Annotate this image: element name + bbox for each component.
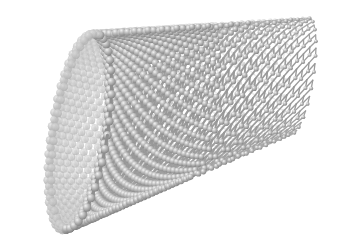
carbon-atom	[291, 127, 295, 131]
rim-carbon-atom	[72, 51, 80, 59]
carbon-atom	[250, 149, 255, 154]
carbon-atom	[284, 19, 288, 23]
carbon-atom	[235, 91, 240, 96]
carbon-atom	[201, 169, 207, 175]
rim-carbon-atom	[47, 176, 55, 184]
nanotube-render-canvas	[0, 0, 342, 247]
carbon-atom	[213, 94, 219, 100]
carbon-atom	[274, 130, 278, 134]
rim-carbon-atom	[48, 151, 56, 159]
carbon-atom	[283, 48, 287, 52]
carbon-atom	[286, 133, 290, 137]
rim-carbon-atom	[76, 43, 84, 51]
carbon-atom	[301, 115, 305, 119]
carbon-atom	[89, 149, 97, 157]
carbon-atom	[265, 44, 270, 49]
carbon-atom	[220, 47, 226, 53]
carbon-atom	[188, 174, 194, 180]
carbon-atom	[277, 55, 282, 60]
carbon-atom	[301, 60, 305, 64]
carbon-atom	[296, 116, 300, 120]
carbon-atom	[258, 145, 262, 149]
carbon-atom	[195, 24, 201, 30]
rim-carbon-atom	[104, 47, 112, 55]
carbon-atom	[283, 101, 287, 105]
carbon-atom	[213, 38, 219, 44]
carbon-atom	[265, 125, 270, 130]
nanotube-figure	[0, 0, 342, 247]
carbon-atom	[231, 79, 237, 85]
carbon-atom	[250, 25, 255, 30]
rim-carbon-atom	[51, 123, 59, 131]
carbon-atom	[225, 41, 231, 47]
carbon-atom	[233, 26, 238, 31]
carbon-atom	[231, 131, 236, 136]
carbon-atom	[199, 154, 205, 160]
carbon-atom	[252, 116, 257, 121]
carbon-atom	[235, 21, 240, 26]
carbon-atom	[222, 29, 228, 35]
carbon-atom	[304, 86, 308, 90]
carbon-atom	[264, 79, 269, 84]
carbon-atom	[296, 43, 300, 47]
carbon-atom	[254, 66, 259, 71]
carbon-atom	[205, 23, 211, 29]
carbon-atom	[264, 108, 269, 113]
carbon-atom	[239, 27, 244, 32]
carbon-atom	[306, 102, 310, 106]
carbon-atom	[225, 77, 231, 83]
carbon-atom	[242, 73, 247, 78]
carbon-atom	[289, 66, 293, 70]
carbon-atom	[254, 22, 259, 27]
carbon-atom	[301, 31, 305, 35]
carbon-atom	[266, 20, 271, 25]
carbon-atom	[165, 26, 172, 33]
carbon-atom	[314, 39, 318, 43]
carbon-atom	[209, 43, 215, 49]
carbon-atom	[239, 140, 244, 145]
carbon-atom	[287, 25, 291, 29]
carbon-atom	[209, 165, 214, 170]
carbon-atom	[260, 125, 265, 130]
carbon-atom	[257, 116, 262, 121]
rim-carbon-atom	[98, 158, 106, 166]
carbon-atom	[226, 131, 231, 136]
carbon-atom	[299, 77, 303, 81]
rim-carbon-atom	[57, 96, 65, 104]
carbon-atom	[271, 53, 276, 58]
rim-carbon-atom	[95, 171, 103, 179]
carbon-atom	[196, 171, 202, 177]
carbon-atom	[268, 90, 273, 95]
carbon-atom	[210, 116, 216, 122]
carbon-atom	[299, 22, 303, 26]
carbon-atom	[276, 72, 281, 77]
carbon-atom	[210, 51, 216, 57]
carbon-atom	[300, 102, 304, 106]
carbon-atom	[205, 58, 211, 64]
carbon-atom	[174, 25, 181, 32]
carbon-atom	[253, 35, 258, 40]
carbon-atom	[274, 91, 279, 96]
carbon-atom	[289, 49, 293, 53]
carbon-atom	[218, 33, 224, 39]
rim-carbon-atom	[87, 194, 95, 202]
carbon-atom	[248, 47, 253, 52]
carbon-atom	[226, 57, 232, 63]
carbon-atom	[216, 107, 222, 113]
carbon-atom	[270, 71, 275, 76]
carbon-atom	[228, 100, 234, 106]
carbon-atom	[231, 42, 237, 48]
carbon-atom	[261, 98, 266, 103]
carbon-atom	[279, 117, 283, 121]
carbon-atom	[256, 97, 261, 102]
carbon-atom	[306, 69, 310, 73]
carbon-atom	[239, 123, 244, 128]
carbon-atom	[293, 76, 297, 80]
carbon-atom	[265, 61, 270, 66]
carbon-atom	[286, 110, 290, 114]
carbon-atom	[272, 21, 277, 26]
carbon-atom	[215, 72, 221, 78]
carbon-atom	[244, 151, 249, 156]
carbon-atom	[243, 54, 248, 59]
carbon-atom	[269, 27, 274, 32]
